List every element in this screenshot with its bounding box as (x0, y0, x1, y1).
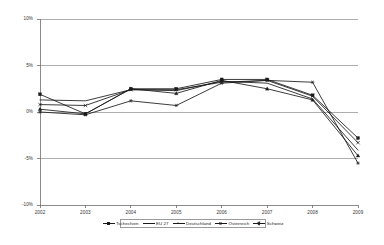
y-axis-tick-label: -5% (13, 156, 33, 161)
x-axis-tick-label: 2002 (25, 210, 55, 215)
y-axis-tick-label: 0% (13, 109, 33, 114)
legend-item-deutschland[interactable]: Deutschland (173, 221, 211, 226)
x-axis-tick-label: 2007 (252, 210, 282, 215)
series-lines (38, 78, 360, 165)
legend-item-eu-27[interactable]: EU 27 (143, 221, 169, 226)
legend-marker-star-icon (253, 221, 265, 226)
x-axis-tick-label: 2004 (116, 210, 146, 215)
gridlines (40, 19, 358, 159)
y-axis-tick-label: -10% (13, 202, 33, 207)
x-axis-tick-label: 2003 (70, 210, 100, 215)
legend-item-sterreich[interactable]: Österreich (215, 221, 249, 226)
legend-marker-plain-icon (143, 221, 155, 226)
legend-item-tschechien[interactable]: Tschechien (103, 221, 139, 226)
legend-label: Schweiz (267, 221, 284, 226)
legend-marker-square-icon (103, 221, 115, 226)
plot-area (0, 0, 384, 245)
x-axis-tick-label: 2009 (343, 210, 373, 215)
legend-label: Tschechien (116, 221, 138, 226)
x-axis-tick-label: 2005 (161, 210, 191, 215)
legend-marker-triangle-icon (173, 221, 185, 226)
y-axis-tick-label: 5% (13, 63, 33, 68)
legend-item-schweiz[interactable]: Schweiz (253, 221, 283, 226)
x-axis-tick-label: 2008 (298, 210, 328, 215)
legend-label: Deutschland (186, 221, 211, 226)
x-axis-tick-label: 2006 (207, 210, 237, 215)
legend-label: EU 27 (156, 221, 168, 226)
y-axis-tick-label: 10% (13, 16, 33, 21)
line-chart: 10%5%0%-5%-10% 2002200320042005200620072… (0, 0, 384, 245)
legend-marker-cross-icon (215, 221, 227, 226)
legend-label: Österreich (228, 221, 249, 226)
legend: TschechienEU 27DeutschlandÖsterreichSchw… (120, 219, 266, 228)
